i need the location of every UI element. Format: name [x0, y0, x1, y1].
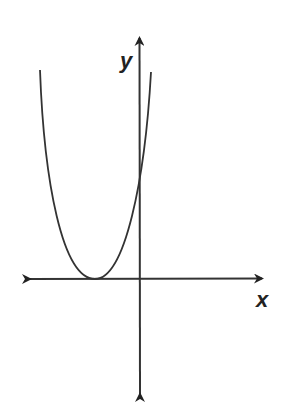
x-axis-label: x	[255, 287, 269, 312]
x-axis	[30, 279, 262, 280]
y-axis-label: y	[119, 48, 134, 73]
y-axis	[140, 38, 141, 394]
parabola-curve	[40, 70, 151, 279]
parabola-diagram: y x	[0, 0, 284, 406]
